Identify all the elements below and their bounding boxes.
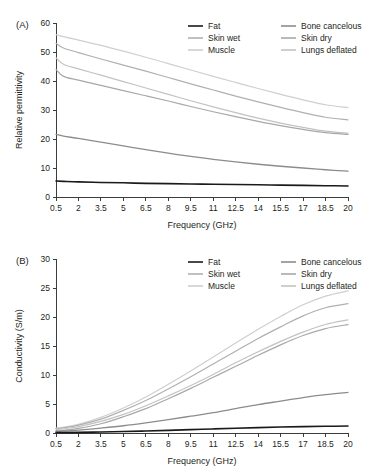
series-line-lungs-deflated: [56, 58, 348, 133]
panel-a-ytick-label: 60: [41, 18, 51, 28]
panel-b-xtick-label: 5: [121, 439, 126, 449]
legend-label: Bone cancelous: [301, 21, 362, 31]
panel-b-xtick-label: 17: [298, 439, 308, 449]
panel-a-ytick-label: 20: [41, 134, 51, 144]
panel-b-xtick-label: 6.5: [140, 439, 152, 449]
panel-a-y-axis: 0102030405060: [41, 18, 56, 202]
panel-b-xtick-label: 15.5: [272, 439, 289, 449]
panel-a-letter: (A): [16, 19, 29, 30]
panel-b-xtick-label: 11: [209, 439, 218, 449]
panel-a-legend: FatBone cancelousSkin wetSkin dryMuscleL…: [188, 21, 362, 55]
panel-b-xtick-label: 14: [253, 439, 263, 449]
panel-a-xtick-label: 6.5: [140, 203, 152, 213]
legend-label: Bone cancelous: [301, 257, 362, 267]
panel-b-ytick-label: 25: [41, 283, 51, 293]
panel-b-x-axis-title: Frequency (GHz): [167, 456, 236, 466]
panel-a-ytick-label: 0: [45, 192, 50, 202]
panel-b-ytick-label: 30: [41, 254, 51, 264]
panel-a-xtick-label: 15.5: [272, 203, 289, 213]
legend-label: Fat: [208, 21, 221, 31]
series-line-muscle: [56, 291, 348, 428]
chart-panel-a: (A)01020304050600.523.556.589.51112.5141…: [0, 0, 370, 237]
panel-a-ytick-label: 40: [41, 76, 51, 86]
panel-a-series-group: [56, 35, 348, 186]
figure-container: (A)01020304050600.523.556.589.51112.5141…: [0, 0, 370, 473]
panel-a-xtick-label: 18.5: [317, 203, 334, 213]
panel-b-ytick-label: 5: [45, 399, 50, 409]
panel-a-xtick-label: 3.5: [95, 203, 107, 213]
legend-item-skin-wet: Skin wet: [188, 269, 241, 279]
panel-a-xtick-label: 9.5: [185, 203, 197, 213]
legend-item-muscle: Muscle: [188, 281, 235, 291]
chart-panel-b: (B)0510152025300.523.556.589.51112.51415…: [0, 236, 370, 473]
series-line-skin-wet: [56, 304, 348, 429]
panel-b-xtick-label: 18.5: [317, 439, 334, 449]
panel-a-x-axis: 0.523.556.589.51112.51415.51718.520: [50, 197, 353, 213]
legend-item-fat: Fat: [188, 21, 221, 31]
series-line-fat: [56, 181, 348, 186]
panel-a-ytick-label: 10: [41, 163, 51, 173]
legend-item-muscle: Muscle: [188, 45, 235, 55]
panel-b-legend: FatBone cancelousSkin wetSkin dryMuscleL…: [188, 257, 362, 291]
panel-a-y-axis-title: Relative permittivity: [14, 70, 24, 149]
legend-label: Muscle: [208, 45, 235, 55]
panel-a-xtick-label: 0.5: [50, 203, 62, 213]
series-line-bone-cancelous: [56, 392, 348, 431]
legend-label: Lungs deflated: [301, 281, 357, 291]
panel-b-xtick-label: 3.5: [95, 439, 107, 449]
panel-a-xtick-label: 12.5: [227, 203, 244, 213]
legend-item-bone-cancelous: Bone cancelous: [281, 21, 362, 31]
legend-label: Muscle: [208, 281, 235, 291]
panel-b-xtick-label: 2: [76, 439, 81, 449]
series-line-skin-dry: [56, 69, 348, 134]
legend-item-lungs-deflated: Lungs deflated: [281, 45, 357, 55]
panel-a-xtick-label: 20: [343, 203, 353, 213]
panel-b-x-axis: 0.523.556.589.51112.51415.51718.520: [50, 433, 353, 449]
legend-label: Skin dry: [301, 33, 332, 43]
panel-a-xtick-label: 5: [121, 203, 126, 213]
legend-item-bone-cancelous: Bone cancelous: [281, 257, 362, 267]
panel-b-svg: (B)0510152025300.523.556.589.51112.51415…: [0, 236, 370, 473]
series-line-fat: [56, 426, 348, 433]
legend-label: Skin dry: [301, 269, 332, 279]
panel-a-xtick-label: 14: [253, 203, 263, 213]
panel-b-ytick-label: 15: [41, 341, 51, 351]
panel-b-xtick-label: 0.5: [50, 439, 62, 449]
legend-item-skin-dry: Skin dry: [281, 33, 332, 43]
legend-item-lungs-deflated: Lungs deflated: [281, 281, 357, 291]
legend-label: Skin wet: [208, 33, 241, 43]
series-line-lungs-deflated: [56, 320, 348, 430]
panel-b-ytick-label: 10: [41, 370, 51, 380]
panel-b-xtick-label: 8: [166, 439, 171, 449]
panel-a-xtick-label: 8: [166, 203, 171, 213]
legend-label: Skin wet: [208, 269, 241, 279]
panel-a-xtick-label: 17: [298, 203, 308, 213]
panel-b-y-axis: 051015202530: [41, 254, 56, 438]
panel-b-ytick-label: 20: [41, 312, 51, 322]
panel-a-ytick-label: 30: [41, 105, 51, 115]
panel-b-xtick-label: 20: [343, 439, 353, 449]
panel-a-ytick-label: 50: [41, 47, 51, 57]
panel-b-series-group: [56, 291, 348, 433]
legend-label: Lungs deflated: [301, 45, 357, 55]
panel-a-svg: (A)01020304050600.523.556.589.51112.5141…: [0, 0, 370, 237]
legend-item-skin-wet: Skin wet: [188, 33, 241, 43]
panel-b-xtick-label: 9.5: [185, 439, 197, 449]
series-line-bone-cancelous: [56, 134, 348, 171]
legend-label: Fat: [208, 257, 221, 267]
panel-b-xtick-label: 12.5: [227, 439, 244, 449]
panel-a-x-axis-title: Frequency (GHz): [167, 220, 236, 230]
panel-a-xtick-label: 2: [76, 203, 81, 213]
panel-b-letter: (B): [16, 255, 29, 266]
legend-item-skin-dry: Skin dry: [281, 269, 332, 279]
panel-a-xtick-label: 11: [209, 203, 218, 213]
legend-item-fat: Fat: [188, 257, 221, 267]
panel-b-ytick-label: 0: [45, 428, 50, 438]
panel-b-y-axis-title: Conductivity (S/m): [14, 309, 24, 383]
